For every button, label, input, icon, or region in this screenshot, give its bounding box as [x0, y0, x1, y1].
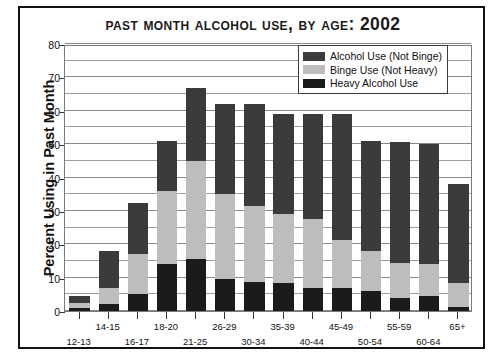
bar-segment	[157, 264, 177, 311]
legend-item: Binge Use (Not Heavy)	[303, 63, 442, 76]
x-category-label: 55-59	[387, 321, 411, 332]
bar-segment	[332, 240, 352, 288]
bar-segment	[273, 214, 293, 282]
x-category-label: 16-17	[125, 336, 149, 347]
legend-swatch-icon	[303, 65, 325, 74]
bar-segment	[128, 294, 148, 311]
bar-group	[273, 44, 293, 311]
y-tick-label: 20	[26, 239, 60, 251]
bar-segment	[390, 142, 410, 262]
x-category-label: 50-54	[358, 336, 382, 347]
y-tick-label: 50	[26, 139, 60, 151]
bar-segment	[215, 279, 235, 311]
chart-figure: Past Month Alcohol Use, by Age: 2002 Per…	[0, 0, 493, 359]
legend-label: Binge Use (Not Heavy)	[330, 64, 437, 76]
bar-segment	[361, 141, 381, 251]
bar-segment	[99, 304, 119, 311]
bar-segment	[215, 194, 235, 279]
bar-segment	[215, 104, 235, 194]
bar-segment	[244, 206, 264, 282]
bar-group	[99, 44, 119, 311]
y-tick-label: 10	[26, 273, 60, 285]
x-category-label: 30-34	[241, 336, 265, 347]
y-axis-ticks: 01020304050607080	[22, 45, 60, 312]
bar-segment	[273, 114, 293, 214]
x-category-label: 35-39	[270, 321, 294, 332]
bar-segment	[419, 296, 439, 311]
y-tick-label: 60	[26, 106, 60, 118]
y-tick-label: 0	[26, 306, 60, 318]
bar-segment	[303, 288, 323, 311]
bar-segment	[273, 283, 293, 311]
legend-swatch-icon	[303, 79, 325, 88]
bar-segment	[332, 114, 352, 240]
legend-item: Heavy Alcohol Use	[303, 77, 442, 90]
bar-segment	[186, 161, 206, 259]
bar-segment	[303, 219, 323, 287]
bar-segment	[69, 296, 89, 303]
bar-segment	[361, 251, 381, 291]
bar-segment	[99, 288, 119, 303]
bar-segment	[390, 263, 410, 298]
x-category-label: 65+	[449, 321, 465, 332]
bar-segment	[186, 88, 206, 160]
bar-segment	[448, 283, 468, 307]
x-category-label: 40-44	[300, 336, 324, 347]
x-axis-labels: 12-1314-1516-1718-2021-2526-2930-3435-39…	[64, 312, 472, 358]
y-tick-label: 80	[26, 39, 60, 51]
bar-segment	[244, 282, 264, 311]
legend-swatch-icon	[303, 52, 325, 61]
bar-segment	[361, 291, 381, 311]
chart-legend: Alcohol Use (Not Binge)Binge Use (Not He…	[298, 45, 448, 94]
bar-segment	[128, 254, 148, 294]
x-category-label: 21-25	[183, 336, 207, 347]
y-tick-label: 70	[26, 72, 60, 84]
y-tick-label: 40	[26, 173, 60, 185]
bar-segment	[69, 308, 89, 311]
x-category-label: 14-15	[96, 321, 120, 332]
y-tick-label: 30	[26, 206, 60, 218]
bar-segment	[303, 114, 323, 219]
bar-segment	[448, 184, 468, 282]
bar-segment	[69, 303, 89, 307]
bar-segment	[128, 203, 148, 255]
bar-segment	[390, 298, 410, 311]
bar-segment	[244, 104, 264, 206]
x-category-label: 18-20	[154, 321, 178, 332]
bar-group	[448, 44, 468, 311]
bar-group	[244, 44, 264, 311]
bar-segment	[419, 264, 439, 296]
legend-item: Alcohol Use (Not Binge)	[303, 50, 442, 63]
bar-segment	[419, 144, 439, 264]
x-category-label: 26-29	[212, 321, 236, 332]
bar-segment	[448, 307, 468, 311]
bar-group	[215, 44, 235, 311]
bar-segment	[332, 288, 352, 311]
legend-label: Alcohol Use (Not Binge)	[330, 50, 442, 62]
bar-segment	[186, 259, 206, 311]
legend-label: Heavy Alcohol Use	[330, 77, 418, 89]
bar-segment	[157, 191, 177, 264]
x-category-label: 60-64	[416, 336, 440, 347]
bar-group	[69, 44, 89, 311]
chart-title: Past Month Alcohol Use, by Age: 2002	[28, 14, 478, 35]
bar-segment	[99, 251, 119, 288]
bar-group	[157, 44, 177, 311]
bar-group	[186, 44, 206, 311]
bar-group	[128, 44, 148, 311]
bar-segment	[157, 141, 177, 191]
x-category-label: 12-13	[66, 336, 90, 347]
x-category-label: 45-49	[329, 321, 353, 332]
